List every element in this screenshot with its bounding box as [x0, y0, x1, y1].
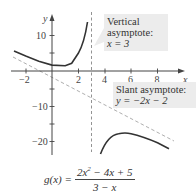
y-tick-label: −20 — [32, 136, 48, 147]
callout-line: asymptote: — [107, 27, 165, 38]
vertical-callout-pointer — [94, 28, 104, 46]
x-tick-label: −2 — [19, 74, 30, 85]
x-tick-label: 4 — [102, 74, 107, 85]
y-axis — [50, 14, 55, 155]
y-tick-label: −10 — [32, 101, 48, 112]
function-formula: g(x) = 2x2 − 4x + 5 3 − x — [44, 165, 135, 193]
formula-lhs: g(x) = — [44, 173, 72, 185]
curve-right-branch — [101, 133, 170, 154]
callout-line: Vertical — [107, 16, 165, 27]
curve-left-branch — [14, 22, 88, 66]
formula-fraction: 2x2 − 4x + 5 3 − x — [75, 165, 135, 193]
slant-asymptote-callout: Slant asymptote: y = −2x − 2 — [113, 82, 196, 108]
y-axis-label: y — [42, 13, 48, 24]
formula-numerator: 2x2 − 4x + 5 — [75, 165, 135, 180]
x-tick-label: 2 — [76, 74, 81, 85]
callout-line: y = −2x − 2 — [116, 95, 194, 106]
formula-denominator: 3 − x — [93, 180, 116, 193]
vertical-asymptote-callout: Vertical asymptote: x = 3 — [104, 14, 168, 51]
y-tick-label: 10 — [36, 30, 46, 41]
callout-line: Slant asymptote: — [116, 84, 194, 95]
callout-line: x = 3 — [107, 38, 165, 49]
